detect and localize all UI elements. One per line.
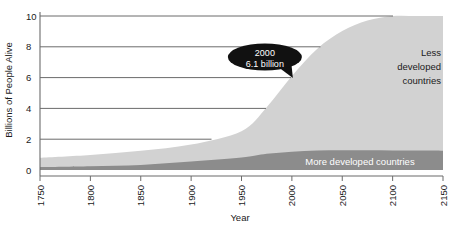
- x-tick-label-1900: 1900: [186, 185, 197, 206]
- y-tick-label-4: 4: [26, 103, 31, 114]
- series-label-less-line-2: developed: [397, 61, 441, 72]
- x-tick-label-2050: 2050: [337, 185, 348, 206]
- series-label-less-line-1: Less: [421, 47, 441, 58]
- y-tick-label-10: 10: [26, 11, 37, 22]
- y-tick-label-6: 6: [26, 72, 31, 83]
- y-axis-title: Billions of People Alive: [3, 42, 14, 138]
- callout-year-text: 2000: [255, 48, 275, 58]
- x-tick-label-1800: 1800: [85, 185, 96, 206]
- x-tick-label-1950: 1950: [236, 185, 247, 206]
- y-tick-label-8: 8: [26, 41, 31, 52]
- chart-canvas: 0246810 17501800185019001950200020502100…: [0, 0, 462, 231]
- x-tick-label-1850: 1850: [135, 185, 146, 206]
- series-label-less-line-3: countries: [402, 75, 441, 86]
- x-tick-label-2000: 2000: [286, 185, 297, 206]
- x-tick-label-1750: 1750: [35, 185, 46, 206]
- y-tick-label-2: 2: [26, 134, 31, 145]
- x-axis-title: Year: [230, 212, 249, 223]
- population-growth-chart: 0246810 17501800185019001950200020502100…: [0, 0, 462, 231]
- callout-value-text: 6.1 billion: [246, 59, 284, 69]
- y-tick-label-0: 0: [26, 165, 31, 176]
- x-tick-label-2100: 2100: [387, 185, 398, 206]
- x-tick-label-2150: 2150: [438, 185, 449, 206]
- series-label-more-developed: More developed countries: [305, 156, 415, 167]
